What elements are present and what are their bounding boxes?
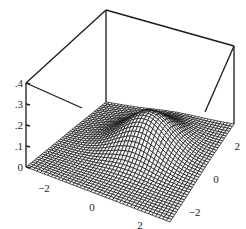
surface-mesh [26, 102, 234, 222]
z-tick-label: 0 [18, 161, 24, 173]
x-tick-label: 2 [137, 219, 143, 229]
y-tick-label: −2 [189, 206, 201, 218]
box-edge-top-left [26, 10, 106, 83]
box-edge-top-right [106, 10, 234, 46]
z-axis: 0.1.2.3.4 [15, 77, 30, 173]
x-tick-label: −2 [38, 182, 50, 194]
z-tick-label: .4 [15, 77, 24, 89]
x-tick-label: 0 [89, 201, 95, 213]
box-edge-top-front-left [26, 83, 82, 108]
y-tick-label: 2 [235, 140, 241, 152]
box-edge-top-front-right [205, 46, 234, 112]
z-tick-label: .2 [15, 119, 23, 131]
y-tick-label: 0 [213, 173, 219, 185]
z-tick-label: .1 [15, 140, 23, 152]
surface-plot: 0.1.2.3.4 −202 −202 [0, 0, 246, 229]
z-tick-label: .3 [15, 98, 24, 110]
